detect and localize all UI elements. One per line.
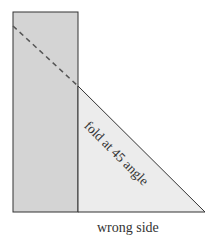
wrong-side-label: wrong side	[97, 220, 159, 236]
fabric-strip	[13, 12, 78, 212]
fold-diagram	[0, 0, 213, 250]
folded-triangle	[78, 86, 205, 212]
